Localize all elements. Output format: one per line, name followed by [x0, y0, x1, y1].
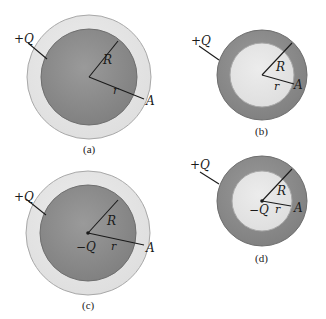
charge-label: +Q — [191, 34, 211, 48]
charge-leader-line — [199, 46, 219, 60]
figure-canvas: +Q R r A (a) +Q R r A (b) +Q R −Q r A (c… — [0, 0, 326, 319]
center-point-charge — [86, 231, 90, 235]
panel-a: +Q R r A (a) — [14, 15, 155, 156]
distance-label: r — [111, 240, 117, 253]
charge-label: +Q — [14, 32, 34, 46]
radius-label: R — [275, 60, 285, 74]
point-label: A — [293, 78, 303, 92]
charge-leader-line — [200, 172, 219, 184]
panel-caption: (b) — [255, 125, 268, 138]
distance-label: r — [113, 84, 119, 97]
panel-d: +Q R −Q r A (d) — [190, 156, 307, 265]
charge-label: +Q — [14, 190, 34, 204]
panel-caption: (c) — [82, 299, 95, 312]
point-label: A — [293, 201, 303, 215]
panel-b: +Q R r A (b) — [191, 30, 307, 138]
panel-c: +Q R −Q r A (c) — [14, 171, 155, 312]
charge-label: +Q — [190, 158, 210, 172]
distance-label: r — [274, 80, 280, 93]
panel-caption: (a) — [83, 143, 96, 156]
center-charge-label: −Q — [249, 203, 269, 217]
center-charge-label: −Q — [76, 240, 96, 254]
point-label: A — [145, 241, 155, 255]
radius-label: R — [276, 184, 286, 198]
radius-label: R — [102, 53, 112, 67]
panel-caption: (d) — [255, 252, 268, 265]
point-label: A — [145, 94, 155, 108]
distance-label: r — [275, 203, 281, 216]
radius-label: R — [106, 214, 116, 228]
